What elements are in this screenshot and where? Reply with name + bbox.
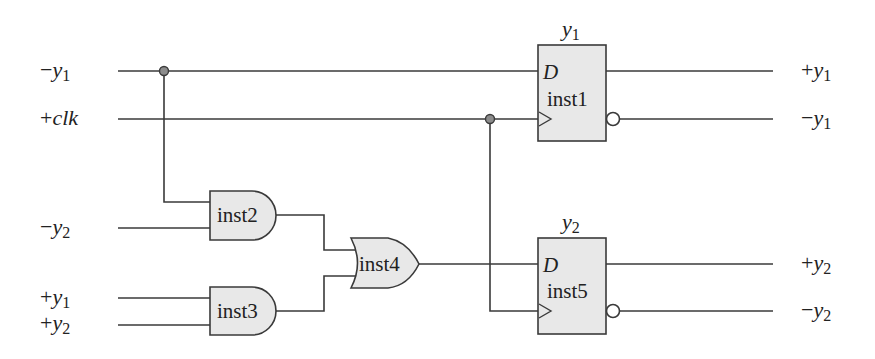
wire-inst3-to-inst4: [276, 276, 356, 311]
flipflop-inst1-title: y1: [560, 16, 580, 43]
flipflop-inst5-name: inst5: [547, 279, 588, 303]
flipflop-inst1-name: inst1: [547, 87, 588, 111]
wire-neg-y1-to-inst2: [164, 71, 210, 202]
output-label-pos-y2: +y2: [801, 250, 831, 277]
inverter-bubble-icon: [607, 113, 620, 126]
and-gate-inst2-label: inst2: [217, 203, 258, 227]
junction-neg-y1: [160, 67, 169, 76]
output-label-neg-y1: −y1: [801, 105, 831, 132]
inverter-bubble-icon: [607, 305, 620, 318]
wire-inst2-to-inst4: [276, 215, 356, 250]
junction-clk: [486, 115, 495, 124]
output-label-neg-y2: −y2: [801, 297, 831, 324]
or-gate-inst4-label: inst4: [359, 252, 400, 276]
output-labels: +y1 −y1 +y2 −y2: [801, 57, 831, 324]
input-label-pos-clk: +clk: [40, 105, 79, 130]
input-label-pos-y1: +y1: [40, 284, 70, 311]
flipflop-inst5-d-label: D: [542, 253, 558, 277]
flipflop-inst1-d-label: D: [542, 60, 558, 84]
input-label-neg-y2: −y2: [40, 214, 70, 241]
flipflop-inst5: D inst5 y2: [538, 209, 620, 334]
output-label-pos-y1: +y1: [801, 57, 831, 84]
wire-clk-to-inst5: [490, 119, 538, 311]
and-gate-inst3: inst3: [210, 287, 276, 335]
logic-circuit-diagram: D inst1 y1 D inst5 y2 inst2 inst3 inst4 …: [0, 0, 875, 359]
and-gate-inst3-label: inst3: [217, 299, 258, 323]
input-label-pos-y2: +y2: [40, 310, 70, 337]
flipflop-inst1: D inst1 y1: [538, 16, 620, 141]
and-gate-inst2: inst2: [210, 191, 276, 240]
flipflop-inst5-title: y2: [560, 209, 580, 236]
input-labels: −y1 +clk −y2 +y1 +y2: [40, 57, 79, 337]
or-gate-inst4: inst4: [351, 238, 419, 288]
input-label-neg-y1: −y1: [40, 57, 70, 84]
